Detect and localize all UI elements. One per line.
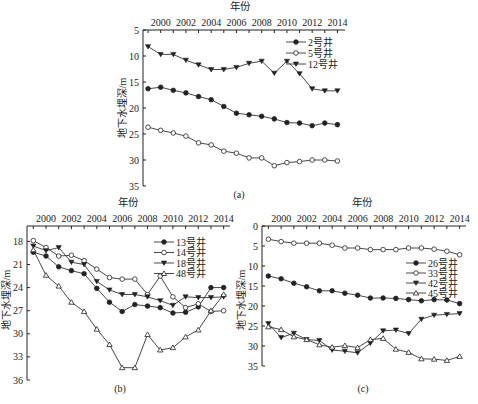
data-point <box>297 121 302 126</box>
data-point <box>355 293 360 298</box>
data-point <box>158 305 163 310</box>
panel-caption: (a) <box>233 189 244 201</box>
data-point <box>304 241 309 246</box>
x-tick-label: 2004 <box>87 213 107 224</box>
data-point <box>184 134 189 139</box>
data-point <box>196 141 201 146</box>
data-point <box>107 275 112 280</box>
y-tick-label: 10 <box>248 261 258 272</box>
series-line <box>148 127 337 166</box>
data-point <box>183 310 188 315</box>
series-5号井 <box>146 125 340 168</box>
series-line <box>268 239 459 255</box>
legend-label: 2号井 <box>308 36 333 48</box>
data-point <box>330 289 335 294</box>
data-point <box>343 246 348 251</box>
data-point <box>158 128 163 133</box>
data-point <box>183 334 188 339</box>
series-45号井 <box>266 324 463 362</box>
data-point <box>292 281 297 286</box>
x-tick-label: 2012 <box>424 213 444 224</box>
chart-panel-c: 2000200220042006200820102012201405101520… <box>235 196 470 395</box>
data-point <box>209 285 214 290</box>
data-point <box>266 274 271 279</box>
x-tick-label: 2008 <box>252 17 272 28</box>
data-point <box>56 265 61 270</box>
y-tick-label: 36 <box>13 375 23 386</box>
data-point <box>310 123 315 128</box>
y-axis-label: 地下水埋深/m <box>235 270 247 331</box>
x-tick-label: 2014 <box>450 213 470 224</box>
legend-label: 5号井 <box>308 47 333 59</box>
data-point <box>221 285 226 290</box>
y-tick-label: 10 <box>129 51 139 62</box>
data-point <box>419 299 424 304</box>
y-tick-label: 25 <box>129 129 139 140</box>
data-point <box>120 277 125 282</box>
data-point <box>69 268 74 273</box>
x-tick-label: 2010 <box>163 213 183 224</box>
data-point <box>82 271 87 276</box>
data-point <box>292 241 297 246</box>
y-tick-label: 35 <box>129 181 139 192</box>
legend-marker <box>294 40 299 45</box>
panel-caption: (c) <box>357 383 368 395</box>
data-point <box>285 120 290 125</box>
chart-panel-a: 2000200220042006200820102012201451015202… <box>116 0 347 201</box>
legend-marker <box>162 250 167 255</box>
data-point <box>342 343 347 348</box>
legend-label: 45号井 <box>428 287 458 299</box>
x-tick-label: 2012 <box>188 213 208 224</box>
legend-label: 12号井 <box>308 58 338 70</box>
data-point <box>234 151 239 156</box>
series-line <box>148 87 337 126</box>
legend-label: 14号井 <box>176 246 206 258</box>
data-point <box>285 160 290 165</box>
data-point <box>279 336 284 340</box>
series-42号井 <box>266 312 462 356</box>
data-point <box>247 112 252 117</box>
data-point <box>196 94 201 99</box>
x-axis-label: 年份 <box>118 196 139 208</box>
data-point <box>259 114 264 119</box>
x-tick-label: 2010 <box>399 213 419 224</box>
y-tick-label: 30 <box>13 328 23 339</box>
series-line <box>268 327 459 361</box>
data-point <box>406 246 411 251</box>
data-point <box>56 254 61 259</box>
x-tick-label: 2004 <box>201 17 221 28</box>
data-point <box>222 104 227 109</box>
y-axis-label: 地下水埋深/m <box>116 78 128 139</box>
x-tick-label: 2002 <box>176 17 196 28</box>
legend-marker <box>414 271 419 276</box>
y-tick-label: 30 <box>129 155 139 166</box>
data-point <box>170 303 175 307</box>
data-point <box>94 286 99 291</box>
data-point <box>221 292 226 297</box>
data-point <box>343 291 348 296</box>
legend-marker <box>162 240 167 245</box>
x-tick-label: 2000 <box>151 17 171 28</box>
x-tick-label: 2008 <box>373 213 393 224</box>
data-point <box>196 327 201 332</box>
data-point <box>335 122 340 127</box>
x-tick-label: 2002 <box>61 213 81 224</box>
legend-label: 18号井 <box>176 257 206 269</box>
y-tick-label: 20 <box>248 301 258 312</box>
x-tick-label: 2006 <box>112 213 132 224</box>
x-tick-label: 2000 <box>36 213 56 224</box>
data-point <box>394 296 399 301</box>
data-point <box>323 158 328 163</box>
y-axis-label: 地下水埋深/m <box>0 270 12 331</box>
x-tick-label: 2012 <box>302 17 322 28</box>
y-tick-label: 15 <box>129 77 139 88</box>
data-point <box>196 301 201 306</box>
data-point <box>209 97 214 102</box>
y-tick-label: 30 <box>248 341 258 352</box>
x-tick-label: 2010 <box>277 17 297 28</box>
data-point <box>234 111 239 116</box>
data-point <box>209 143 214 148</box>
x-tick-label: 2002 <box>297 213 317 224</box>
data-point <box>266 237 271 242</box>
data-point <box>457 354 462 359</box>
